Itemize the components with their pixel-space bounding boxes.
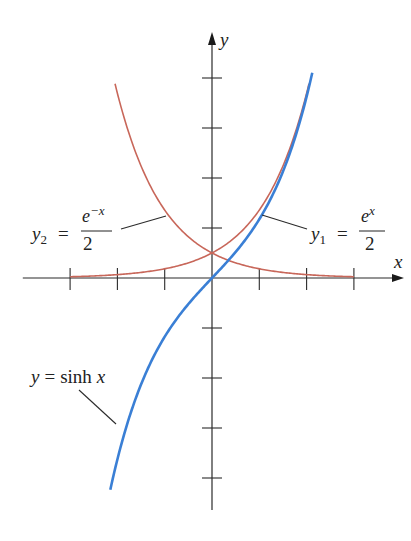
y1-label-equals: = <box>337 223 348 244</box>
curve-y2 <box>115 84 354 277</box>
sinh-label-arg: x <box>96 366 106 387</box>
y2-num-base: e <box>82 206 90 226</box>
y-axis-label: y <box>218 29 229 50</box>
x-axis-label: x <box>393 251 403 272</box>
y1-label-numerator: ex <box>361 203 375 226</box>
axes: x y <box>23 29 404 510</box>
y1-label-lhs: y1 <box>309 223 326 247</box>
sinh-label-fn: sinh <box>60 366 92 387</box>
x-axis-arrowhead <box>392 274 404 282</box>
sinh-label: y=sinhx <box>29 366 106 387</box>
y2-label-var: y <box>30 223 41 244</box>
sinh-leader-line <box>79 390 116 424</box>
y2-label: y2 = e−x 2 <box>30 203 112 254</box>
curve-y1 <box>70 84 309 277</box>
label-leaders <box>79 215 307 424</box>
sinh-label-text: y=sinhx <box>29 366 106 387</box>
y2-label-denominator: 2 <box>83 233 93 254</box>
y1-num-base: e <box>361 206 369 226</box>
curve-sinh <box>110 73 312 490</box>
y2-label-equals: = <box>58 223 69 244</box>
y1-label-denominator: 2 <box>365 233 375 254</box>
chart-svg: x y y2 = e−x 2 y1 = ex 2 y=sinhx <box>0 0 411 541</box>
y2-label-numerator: e−x <box>82 203 105 226</box>
y2-leader-line <box>121 216 166 229</box>
y1-label-var: y <box>309 223 320 244</box>
y-axis-arrowhead <box>208 32 216 45</box>
sinh-label-equals: = <box>44 366 55 387</box>
y1-num-exp: x <box>368 203 375 218</box>
y2-label-subscript: 2 <box>40 232 47 247</box>
y2-label-lhs: y2 <box>30 223 47 247</box>
y1-label-subscript: 1 <box>319 232 326 247</box>
y1-label: y1 = ex 2 <box>309 203 385 254</box>
y2-num-exp: −x <box>90 203 105 218</box>
y1-leader-line <box>262 215 307 229</box>
sinh-label-var: y <box>29 366 40 387</box>
